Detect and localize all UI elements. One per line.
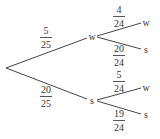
probability-w-s: 20 24 (113, 44, 125, 68)
denominator: 24 (113, 56, 125, 68)
probability-root-s: 20 25 (40, 85, 52, 109)
leaf-w-w: w (142, 18, 149, 28)
tree-branches (0, 0, 160, 139)
numerator: 19 (113, 109, 125, 120)
denominator: 24 (113, 82, 125, 94)
probability-root-w: 5 25 (40, 26, 52, 50)
probability-s-s: 19 24 (113, 109, 125, 133)
probability-w-w: 4 24 (113, 5, 125, 29)
denominator: 25 (40, 97, 52, 109)
node-s: s (90, 96, 94, 106)
leaf-w-s: s (144, 45, 148, 55)
denominator: 24 (113, 17, 125, 29)
denominator: 24 (113, 121, 125, 133)
numerator: 5 (43, 26, 50, 37)
leaf-s-w: w (142, 83, 149, 93)
probability-tree-diagram: w s w s w s 5 25 20 25 4 24 20 24 5 24 1… (0, 0, 160, 139)
node-w: w (88, 32, 95, 42)
leaf-s-s: s (144, 110, 148, 120)
denominator: 25 (40, 38, 52, 50)
numerator: 20 (40, 85, 52, 96)
numerator: 4 (116, 5, 123, 16)
numerator: 5 (116, 70, 123, 81)
probability-s-w: 5 24 (113, 70, 125, 94)
numerator: 20 (113, 44, 125, 55)
